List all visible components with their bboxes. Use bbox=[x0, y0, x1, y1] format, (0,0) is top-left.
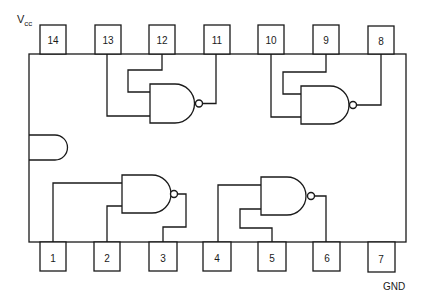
nand-gate-2 bbox=[218, 177, 326, 242]
inverter-bubble bbox=[308, 193, 315, 200]
nand-gate-body bbox=[122, 175, 171, 213]
wire-pin2-to-gate1 bbox=[107, 206, 122, 242]
wire-pin1-to-gate1 bbox=[53, 183, 122, 242]
pin-7-label: 7 bbox=[378, 254, 384, 265]
inverter-bubble bbox=[171, 191, 178, 198]
pin-14-label: 14 bbox=[47, 35, 59, 46]
inverter-bubble bbox=[350, 102, 357, 109]
wire-pin5-to-gate2 bbox=[240, 209, 272, 242]
pin-1-label: 1 bbox=[50, 253, 56, 264]
pin-11-label: 11 bbox=[212, 35, 223, 46]
wire-gate3-to-pin11 bbox=[203, 54, 217, 104]
pin-10-label: 10 bbox=[265, 35, 277, 46]
nand-gate-1 bbox=[53, 175, 186, 242]
pin-2-label: 2 bbox=[104, 253, 110, 264]
pin-4-label: 4 bbox=[214, 253, 220, 264]
wire-pin9-to-gate4 bbox=[283, 54, 326, 94]
pin-8-label: 8 bbox=[378, 36, 384, 47]
nand-gate-3 bbox=[107, 54, 216, 123]
pin-3-label: 3 bbox=[160, 253, 166, 264]
wire-pin10-to-gate4 bbox=[271, 54, 301, 117]
pin-9-label: 9 bbox=[323, 35, 329, 46]
wire-pin12-to-gate3 bbox=[128, 54, 162, 92]
gnd-label: GND bbox=[383, 281, 405, 292]
vcc-label: Vcc bbox=[17, 13, 32, 28]
nand-gate-4 bbox=[271, 54, 381, 124]
pin-12-label: 12 bbox=[156, 35, 168, 46]
nand-gate-body bbox=[301, 86, 349, 124]
wire-gate4-to-pin8 bbox=[357, 54, 382, 105]
bottom-pins: 1 2 3 4 5 6 7 bbox=[40, 242, 395, 272]
inverter-bubble bbox=[196, 100, 203, 107]
pin-13-label: 13 bbox=[102, 35, 114, 46]
nand-gate-body bbox=[261, 177, 306, 215]
orientation-notch bbox=[29, 135, 67, 160]
wire-gate1-to-pin3 bbox=[163, 194, 186, 242]
ic-pinout-diagram: 14 13 12 11 10 9 8 1 2 3 4 5 6 7 bbox=[0, 0, 426, 305]
wire-gate2-to-pin6 bbox=[315, 196, 327, 242]
pin-6-label: 6 bbox=[324, 253, 330, 264]
nand-gate-body bbox=[150, 84, 195, 123]
pin-5-label: 5 bbox=[269, 253, 275, 264]
top-pins: 14 13 12 11 10 9 8 bbox=[40, 25, 394, 54]
